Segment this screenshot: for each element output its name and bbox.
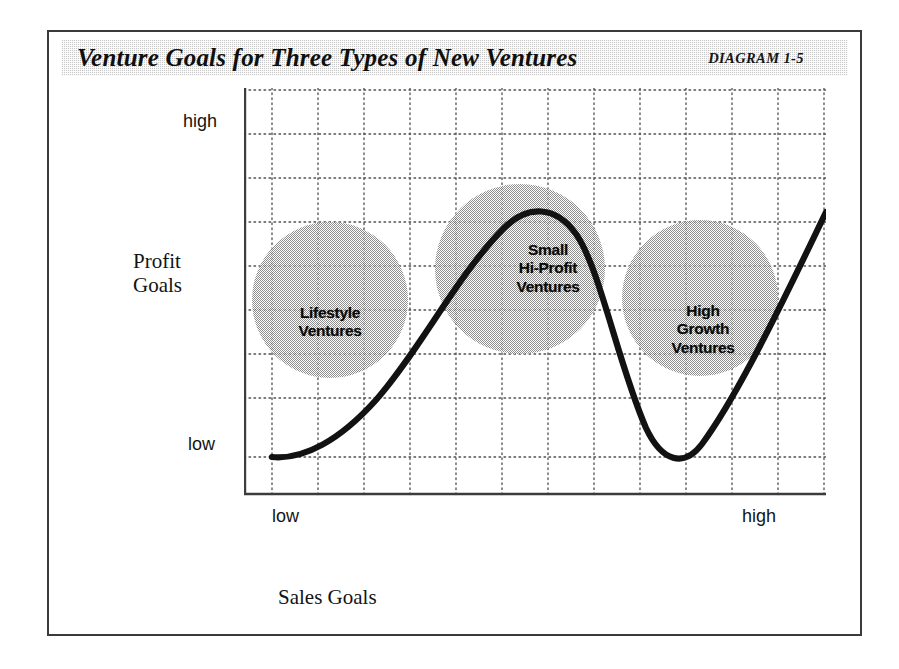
page-title: Venture Goals for Three Types of New Ven… [77,44,577,72]
bubble-label-hi-profit: Small Hi-Profit Ventures [516,241,579,296]
diagram-figure: Venture Goals for Three Types of New Ven… [0,0,899,669]
bubble-label-lifestyle: Lifestyle Ventures [298,304,361,341]
x-axis-title: Sales Goals [278,586,377,610]
y-axis-title: Profit Goals [133,250,182,297]
y-axis-low-label: low [188,434,215,455]
title-bar: Venture Goals for Three Types of New Ven… [61,40,848,76]
x-axis-low-label: low [272,506,299,527]
y-axis-high-label: high [183,111,217,132]
x-axis-high-label: high [742,506,776,527]
diagram-number-label: DIAGRAM 1-5 [708,50,804,67]
bubble-label-high-growth: High Growth Ventures [671,302,734,357]
bubble-lifestyle [252,222,408,378]
